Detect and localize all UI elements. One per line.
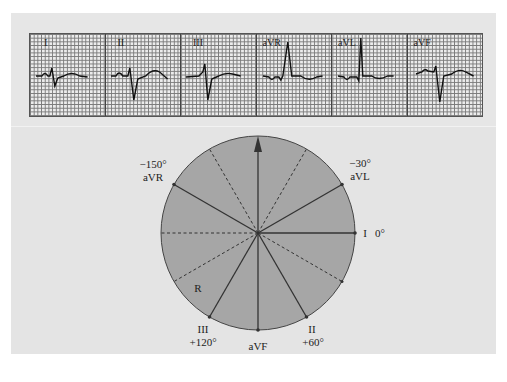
avl-angle-label: −30° [342, 157, 378, 169]
lead-iii-label: III [193, 323, 213, 335]
lead-ii-label: II [302, 323, 322, 335]
lead-i-angle-label: 0° [372, 227, 388, 239]
avf-lead-label: aVF [245, 340, 271, 352]
region-r-label: R [192, 282, 204, 294]
avr-lead-label: aVR [133, 171, 173, 183]
lead-ii-angle-label: +60° [298, 336, 328, 348]
hexaxial-reference-wheel [0, 0, 507, 382]
lead-i-label: I [360, 227, 370, 239]
avl-lead-label: aVL [342, 170, 378, 182]
avr-angle-label: −150° [133, 158, 173, 170]
lead-iii-angle-label: +120° [185, 336, 221, 348]
